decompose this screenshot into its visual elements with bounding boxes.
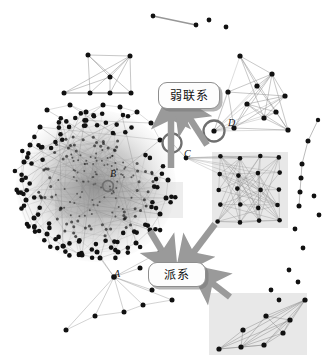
network-graph-figure	[0, 0, 328, 364]
network-graph-svg	[0, 0, 328, 364]
arrow-clique-upper-left	[150, 231, 165, 256]
highlight-box-clique-right	[212, 152, 288, 228]
node-label-b: B	[110, 169, 116, 179]
arrow-clique-upper-right	[190, 224, 215, 257]
node-label-d: D	[228, 118, 235, 128]
callout-weak-ties: 弱联系	[158, 82, 220, 109]
node-label-a: A	[114, 269, 120, 279]
node-label-c: C	[184, 149, 191, 159]
callout-clique: 派系	[148, 262, 206, 287]
